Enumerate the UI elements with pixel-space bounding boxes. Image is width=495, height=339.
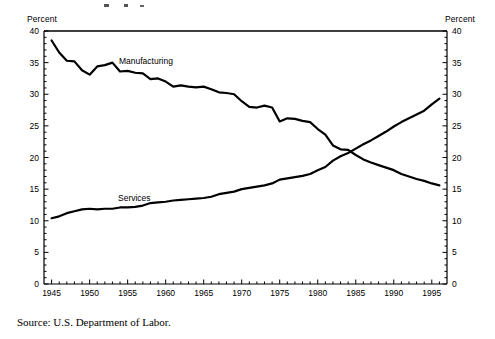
y-tick-label-right-40: 40 <box>452 26 472 36</box>
y-tick-label-left-40: 40 <box>19 26 39 36</box>
x-tick-label-1980: 1980 <box>301 288 335 298</box>
y-tick-label-left-15: 15 <box>19 184 39 194</box>
y-tick-label-right-15: 15 <box>452 184 472 194</box>
x-tick-label-1960: 1960 <box>149 288 183 298</box>
series-line-manufacturing <box>52 40 440 185</box>
y-tick-label-right-30: 30 <box>452 89 472 99</box>
x-tick-label-1965: 1965 <box>187 288 221 298</box>
y-tick-label-right-20: 20 <box>452 153 472 163</box>
source-note: Source: U.S. Department of Labor. <box>17 316 171 328</box>
y-axis-ticks-right <box>443 31 448 284</box>
series-label-manufacturing: Manufacturing <box>119 56 173 66</box>
y-tick-label-right-25: 25 <box>452 121 472 131</box>
series-label-services: Services <box>118 193 151 203</box>
x-axis-ticks <box>52 280 440 285</box>
series-line-services <box>52 99 440 219</box>
right-axis-title: Percent <box>445 14 475 24</box>
x-tick-label-1945: 1945 <box>35 288 69 298</box>
x-tick-label-1970: 1970 <box>225 288 259 298</box>
x-tick-label-1955: 1955 <box>111 288 145 298</box>
y-tick-label-right-10: 10 <box>452 216 472 226</box>
y-tick-label-left-5: 5 <box>19 247 39 257</box>
y-tick-label-right-5: 5 <box>452 247 472 257</box>
y-tick-label-left-10: 10 <box>19 216 39 226</box>
x-tick-label-1995: 1995 <box>415 288 449 298</box>
y-tick-label-left-30: 30 <box>19 89 39 99</box>
figure: Percent Percent 0510152025303540 0510152… <box>0 0 495 339</box>
x-tick-label-1975: 1975 <box>263 288 297 298</box>
y-tick-label-left-25: 25 <box>19 121 39 131</box>
x-tick-label-1990: 1990 <box>377 288 411 298</box>
left-axis-title: Percent <box>27 14 57 24</box>
y-tick-label-left-20: 20 <box>19 153 39 163</box>
y-tick-label-left-35: 35 <box>19 58 39 68</box>
y-tick-label-right-35: 35 <box>452 58 472 68</box>
x-tick-label-1985: 1985 <box>339 288 373 298</box>
cropped-title-remnant <box>96 0 166 7</box>
y-tick-label-right-0: 0 <box>452 279 472 289</box>
x-tick-label-1950: 1950 <box>73 288 107 298</box>
data-series-group <box>52 40 440 218</box>
axes-frame <box>44 31 447 284</box>
y-axis-ticks-left <box>44 31 49 284</box>
